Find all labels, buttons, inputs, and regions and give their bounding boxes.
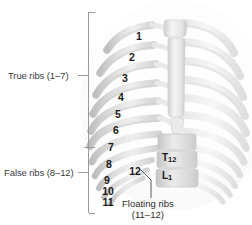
vertebra-number-1: 1: [168, 173, 172, 182]
rib-number-11: 11: [99, 196, 117, 208]
vertebra-label-t12: T12: [162, 152, 176, 163]
rib-number-5: 5: [112, 108, 124, 120]
true-ribs-label: True ribs (1–7): [8, 70, 68, 81]
rib-number-8: 8: [103, 158, 115, 170]
rib-number-1: 1: [133, 30, 145, 42]
rib-number-3: 3: [119, 72, 131, 84]
rib-number-4: 4: [115, 91, 127, 103]
rib-number-6: 6: [110, 124, 122, 136]
rib-number-12: 12: [127, 165, 143, 177]
floating-ribs-caption-line2: (11–12): [122, 209, 174, 220]
rib-cage-figure: True ribs (1–7) False ribs (8–12) 1 2 3 …: [0, 0, 252, 225]
floating-ribs-caption-line1: Floating ribs: [122, 198, 174, 209]
vertebra-number-12: 12: [168, 155, 176, 164]
vertebra-label-l1: L1: [162, 170, 172, 181]
floating-ribs-caption: Floating ribs (11–12): [122, 198, 174, 220]
rib-number-2: 2: [126, 51, 138, 63]
rib-number-7: 7: [105, 141, 117, 153]
rib-cage-illustration: [0, 0, 252, 225]
false-ribs-label: False ribs (8–12): [4, 167, 74, 178]
